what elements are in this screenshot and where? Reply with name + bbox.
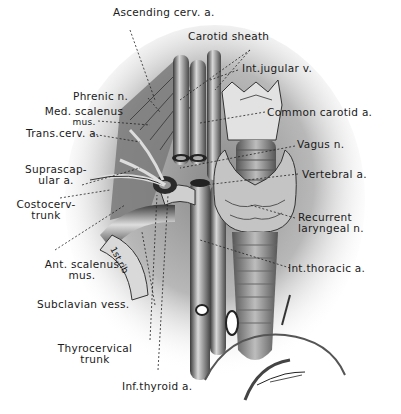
label-vagus-nerve: Vagus n. <box>297 139 344 150</box>
label-line-2: laryngeal n. <box>298 223 364 234</box>
label-phrenic-nerve: Phrenic n. <box>73 91 128 102</box>
label-costocervical-trunk: Costocerv- trunk <box>6 199 86 221</box>
artist-signature <box>257 372 305 385</box>
label-line-2: trunk <box>6 210 86 221</box>
label-medial-scalenus-muscle: Med. scalenus mus. <box>36 106 132 128</box>
anatomy-figure: Ascending cerv. a. Carotid sheath Int.ju… <box>0 0 401 414</box>
label-internal-thoracic-artery: Int.thoracic a. <box>288 263 365 274</box>
label-line-2: mus. <box>32 270 132 281</box>
label-line-2: trunk <box>40 354 150 365</box>
label-internal-jugular-vein: Int.jugular v. <box>242 63 312 74</box>
label-line-2: ular a. <box>14 175 98 186</box>
label-suprascapular-artery: Suprascap- ular a. <box>14 164 98 186</box>
label-transverse-cervical-artery: Trans.cerv. a. <box>26 128 100 139</box>
label-line-1: Med. scalenus <box>36 106 132 117</box>
label-carotid-sheath: Carotid sheath <box>188 31 269 42</box>
label-subclavian-vessels: Subclavian vess. <box>37 299 129 310</box>
trachea <box>232 232 278 360</box>
label-recurrent-laryngeal-nerve: Recurrent laryngeal n. <box>298 212 364 234</box>
label-common-carotid-artery: Common carotid a. <box>267 107 372 118</box>
label-vertebral-artery: Vertebral a. <box>302 169 367 180</box>
label-ascending-cervical-artery: Ascending cerv. a. <box>113 7 215 18</box>
label-inferior-thyroid-artery: Inf.thyroid a. <box>122 381 192 392</box>
label-thyrocervical-trunk: Thyrocervical trunk <box>40 343 150 365</box>
